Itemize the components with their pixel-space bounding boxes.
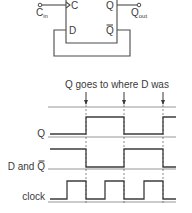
d-flip-flop-diagram: Cin C D Q Q Qout Q goes to where D was — [0, 0, 192, 213]
clock-edge-triangle-icon — [66, 2, 70, 8]
waveform-clock — [50, 181, 176, 199]
edge-arrows — [84, 92, 165, 105]
flip-flop-circuit: Cin C D Q Q Qout — [36, 0, 147, 56]
waveform-q — [50, 117, 176, 134]
arrow-down-icon — [84, 92, 88, 105]
signal-label-d-and-qbar: D and Q — [8, 161, 45, 172]
timing-annotation: Q goes to where D was — [65, 79, 169, 90]
q-output-label: Qout — [131, 7, 147, 19]
d-pin-label: D — [69, 25, 76, 36]
waveform-d-and-qbar — [50, 149, 176, 167]
arrow-down-icon — [161, 92, 165, 105]
q-pin-label: Q — [106, 0, 114, 11]
signal-label-clock: clock — [22, 191, 46, 202]
signal-label-q: Q — [37, 128, 45, 139]
qbar-pin-label: Q — [106, 25, 114, 36]
clock-input-label: Cin — [36, 7, 48, 19]
arrow-down-icon — [122, 92, 126, 105]
clock-pin-label: C — [71, 0, 78, 11]
